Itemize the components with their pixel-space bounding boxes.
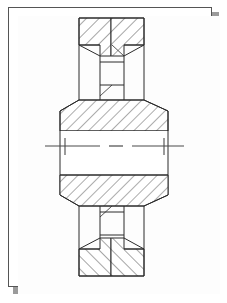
upper-hub-hatch: [60, 100, 168, 131]
lower-hub-hatch: [60, 175, 168, 206]
upper-rim-left-hatch: [79, 18, 111, 56]
upper-groove-right-face: [124, 45, 144, 56]
upper-groove-left-face: [79, 45, 100, 56]
lower-groove-left-face: [79, 238, 100, 249]
screenshot-root: Sectional View — V-Belt Pulley (Sheave) …: [0, 0, 227, 303]
upper-web-tick-2: [100, 85, 112, 96]
upper-rim-right-hatch: [111, 18, 144, 56]
lower-rim-left-hatch: [79, 238, 111, 276]
figure-group: [45, 18, 184, 276]
pulley-section-drawing: [8, 7, 212, 287]
upper-rim-group: [79, 18, 144, 100]
lower-rim-group: [79, 206, 144, 276]
lower-hub-group: [60, 175, 168, 206]
upper-hub-group: [60, 100, 168, 131]
bore-opening: [60, 131, 168, 175]
lower-groove-right-face: [124, 238, 144, 249]
lower-rim-right-hatch: [111, 238, 144, 276]
